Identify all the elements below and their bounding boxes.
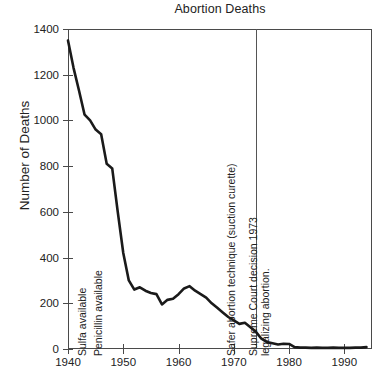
x-tick-label: 1990 xyxy=(332,356,358,368)
y-tick-label: 600 xyxy=(40,206,59,218)
y-tick-label: 1400 xyxy=(33,23,59,35)
x-tick-label: 1950 xyxy=(110,356,136,368)
x-tick-label: 1970 xyxy=(221,356,247,368)
data-series-layer xyxy=(68,29,372,349)
x-tick-label: 1960 xyxy=(166,356,192,368)
y-tick-label: 0 xyxy=(53,343,59,355)
chart-title: Abortion Deaths xyxy=(68,2,372,16)
abortion-deaths-chart-figure: Abortion Deaths Number of Deaths 0200400… xyxy=(0,0,386,386)
x-tick-label: 1980 xyxy=(276,356,302,368)
series-line-0 xyxy=(68,40,366,347)
x-tick-label: 1940 xyxy=(55,356,81,368)
y-tick-label: 1000 xyxy=(33,114,59,126)
y-tick-label: 400 xyxy=(40,252,59,264)
y-tick-label: 200 xyxy=(40,297,59,309)
y-axis-label: Number of Deaths xyxy=(17,66,32,246)
plot-area: 0200400600800100012001400 19401950196019… xyxy=(68,29,372,349)
y-tick-label: 800 xyxy=(40,160,59,172)
y-tick-label: 1200 xyxy=(33,69,59,81)
